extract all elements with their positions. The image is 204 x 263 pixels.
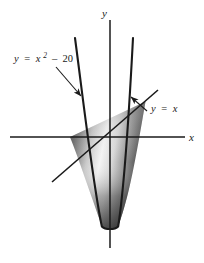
- line-label-equals: =: [161, 103, 167, 114]
- parabola-label-lhs: y: [13, 53, 19, 64]
- graph-figure: y = x 2 – 20 y = x y x: [0, 0, 204, 263]
- parabola-label-operator: –: [51, 53, 58, 64]
- annotation-arrows-group: [56, 67, 147, 111]
- parabola-label-constant: 20: [62, 53, 73, 64]
- line-label-variable: x: [172, 103, 178, 114]
- parabola-label-exponent: 2: [43, 51, 47, 60]
- parabola-label-variable: x: [35, 53, 41, 64]
- graph-canvas: y = x 2 – 20 y = x y x: [0, 0, 204, 263]
- shaded-region-vertical-shading: [60, 95, 155, 235]
- x-axis-label: x: [188, 131, 194, 143]
- parabola-equation-label: y = x 2 – 20: [13, 49, 73, 64]
- parabola-label-arrow: [56, 67, 81, 96]
- parabola-label-equals: =: [24, 53, 30, 64]
- shaded-region-group: [60, 95, 155, 235]
- line-equation-label: y = x: [150, 103, 178, 114]
- line-label-lhs: y: [150, 103, 156, 114]
- y-axis-label: y: [101, 7, 107, 19]
